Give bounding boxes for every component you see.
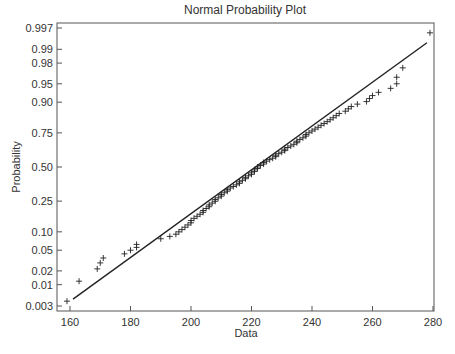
y-tick-label: 0.95 bbox=[32, 78, 53, 90]
y-tick-label: 0.25 bbox=[32, 195, 53, 207]
plus-marker bbox=[370, 93, 376, 99]
plus-marker bbox=[388, 85, 394, 91]
plus-marker bbox=[261, 160, 267, 166]
y-tick-label: 0.99 bbox=[32, 43, 53, 55]
plus-marker bbox=[121, 251, 127, 257]
plus-marker bbox=[363, 99, 369, 105]
plus-marker bbox=[134, 241, 140, 247]
y-axis-label: Probability bbox=[10, 141, 22, 193]
plus-marker bbox=[354, 101, 360, 107]
y-tick-label: 0.50 bbox=[32, 161, 53, 173]
x-tick-label: 240 bbox=[303, 316, 321, 328]
y-tick-label: 0.02 bbox=[32, 265, 53, 277]
y-tick-label: 0.98 bbox=[32, 57, 53, 69]
plus-marker bbox=[258, 162, 264, 168]
data-points bbox=[64, 30, 433, 304]
plus-marker bbox=[255, 164, 261, 170]
y-tick-label: 0.90 bbox=[32, 96, 53, 108]
plus-marker bbox=[394, 74, 400, 80]
plus-marker bbox=[400, 65, 406, 71]
normal-probability-plot: Normal Probability Plot 0.0030.010.020.0… bbox=[0, 0, 455, 354]
plus-marker bbox=[366, 96, 372, 102]
y-tick-label: 0.997 bbox=[25, 22, 53, 34]
x-axis-label: Data bbox=[234, 327, 258, 339]
plus-marker bbox=[167, 233, 173, 239]
y-tick-label: 0.003 bbox=[25, 300, 53, 312]
plus-marker bbox=[376, 89, 382, 95]
reference-line bbox=[73, 43, 427, 299]
x-tick-label: 180 bbox=[121, 316, 139, 328]
x-axis: 160180200220240260280 bbox=[61, 306, 442, 328]
plus-marker bbox=[394, 81, 400, 87]
x-tick-label: 160 bbox=[61, 316, 79, 328]
y-tick-label: 0.10 bbox=[32, 226, 53, 238]
plus-marker bbox=[97, 260, 103, 266]
plus-marker bbox=[264, 158, 270, 164]
x-tick-label: 280 bbox=[424, 316, 442, 328]
plus-marker bbox=[100, 255, 106, 261]
chart-title: Normal Probability Plot bbox=[184, 3, 307, 17]
x-tick-label: 260 bbox=[363, 316, 381, 328]
plus-marker bbox=[128, 247, 134, 253]
plus-marker bbox=[76, 278, 82, 284]
y-tick-label: 0.01 bbox=[32, 279, 53, 291]
y-tick-label: 0.05 bbox=[32, 244, 53, 256]
plot-area bbox=[57, 23, 434, 311]
y-tick-label: 0.75 bbox=[32, 127, 53, 139]
plus-marker bbox=[252, 167, 258, 173]
plus-marker bbox=[427, 30, 433, 36]
plus-marker bbox=[64, 298, 70, 304]
plus-marker bbox=[94, 266, 100, 272]
x-tick-label: 200 bbox=[182, 316, 200, 328]
